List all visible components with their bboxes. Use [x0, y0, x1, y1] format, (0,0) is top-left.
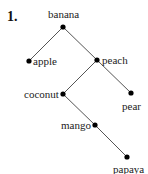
tree-diagram — [0, 0, 148, 174]
node-dot-pear — [128, 90, 133, 95]
node-label-papaya: papaya — [113, 164, 144, 174]
edge-mango-papaya — [95, 125, 127, 157]
node-dot-coconut — [60, 91, 65, 96]
node-label-mango: mango — [61, 120, 91, 131]
node-dot-apple — [26, 58, 31, 63]
node-label-banana: banana — [48, 9, 79, 20]
edge-peach-coconut — [63, 60, 97, 94]
node-label-pear: pear — [122, 101, 141, 112]
node-dot-mango — [92, 122, 97, 127]
node-label-peach: peach — [102, 55, 128, 66]
node-dot-banana — [60, 24, 65, 29]
edge-banana-peach — [63, 27, 97, 60]
node-label-apple: apple — [33, 56, 57, 67]
node-label-coconut: coconut — [24, 89, 59, 100]
node-dot-peach — [94, 57, 99, 62]
node-dot-papaya — [124, 154, 129, 159]
